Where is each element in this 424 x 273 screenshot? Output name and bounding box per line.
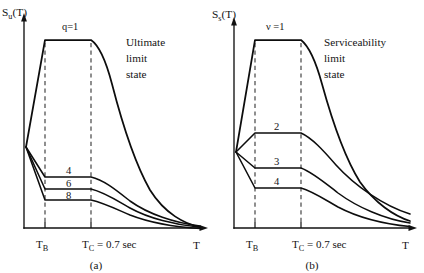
curve-nu1-b [236, 40, 410, 221]
annotation-line-3-b: state [324, 68, 345, 80]
x-tick-label-tc-a: TC = 0.7 sec [82, 238, 137, 253]
chart-panel-b: Ss(T) ν =1 2 3 4 Serviceability limit st… [212, 0, 424, 273]
curve-2-b [236, 133, 410, 214]
x-tick-label-tb-b: TB [246, 238, 259, 253]
curve-label-2-b: 2 [274, 121, 279, 132]
curve-label-6-a: 6 [66, 178, 71, 189]
x-tick-label-tc-tail-a: = 0.7 sec [94, 238, 136, 250]
x-tick-label-tb-sub-a: B [43, 244, 49, 253]
x-axis-name-b: T [402, 239, 409, 251]
annotation-line-1-a: Ultimate [126, 36, 165, 48]
y-axis-label-b: Ss(T) [212, 8, 236, 23]
annotation-line-2-a: limit [126, 52, 148, 64]
x-axis-name-a: T [193, 239, 200, 251]
panel-caption-b: (b) [305, 259, 318, 272]
panel-caption-a: (a) [90, 259, 103, 272]
curve-4-a [26, 147, 200, 226]
x-axis-arrow-a [200, 225, 209, 231]
x-tick-label-tb-sub-b: B [253, 244, 259, 253]
figure-container: Su(T) q=1 4 6 8 Ultimate limit state TB … [0, 0, 424, 273]
chart-panel-a: Su(T) q=1 4 6 8 Ultimate limit state TB … [0, 0, 212, 273]
curve-label-nu1-b: ν =1 [266, 21, 284, 32]
curve-label-4-b: 4 [274, 176, 280, 187]
y-axis-label-tail-b: (T) [222, 8, 237, 21]
annotation-line-1-b: Serviceability [324, 36, 387, 48]
annotation-line-3-a: state [126, 68, 147, 80]
curve-label-4-a: 4 [66, 165, 72, 176]
curve-4-b [236, 152, 410, 227]
x-tick-label-tc-b: TC = 0.7 sec [292, 238, 347, 253]
curve-label-3-b: 3 [274, 156, 279, 167]
y-axis-label-tail-a: (T) [12, 6, 27, 19]
x-tick-label-tb-a: TB [36, 238, 49, 253]
annotation-line-2-b: limit [324, 52, 346, 64]
curve-label-q1-a: q=1 [62, 21, 78, 32]
x-tick-label-tc-tail-b: = 0.7 sec [304, 238, 346, 250]
curve-label-8-a: 8 [66, 190, 71, 201]
